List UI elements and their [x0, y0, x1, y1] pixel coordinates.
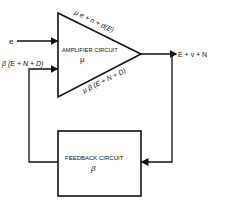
amplifier-gain-symbol: μ: [80, 55, 85, 64]
feedback-gain-symbol: β: [90, 164, 96, 173]
feedback-label: FEEDBACK CIRCUIT: [65, 155, 124, 161]
input-label: e: [9, 37, 14, 46]
feedback-forward-line: [142, 54, 172, 162]
amplifier-label: AMPLIFIER CIRCUIT: [62, 47, 118, 53]
feedback-amplifier-diagram: e β (E + N + D) AMPLIFIER CIRCUIT μ μ e …: [0, 0, 228, 204]
output-label: E + ν + N: [178, 51, 207, 58]
feedback-block: [58, 131, 141, 196]
feedback-return-line: [29, 69, 58, 162]
feedback-input-label: β (E + N + D): [1, 60, 43, 68]
